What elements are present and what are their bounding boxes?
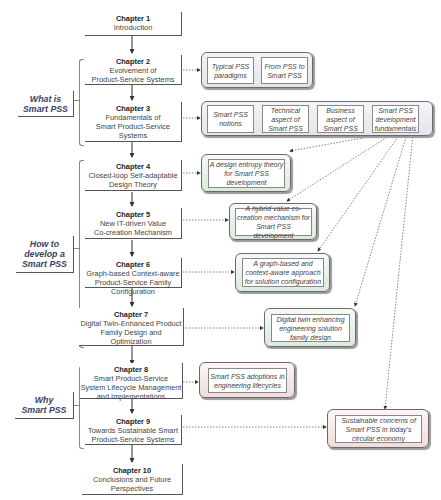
chapter-title: Digital Twin-Enhanced Product Family Des… [79, 319, 183, 346]
chapter-6-topic-group: A graph-based and context-aware approach… [235, 253, 330, 292]
topic-design-entropy-theory: A design entropy theory for Smart PSS de… [208, 159, 285, 188]
chapter-number: Chapter 5 [85, 210, 181, 219]
chapter-8: Chapter 8 Smart Product-Service System L… [80, 363, 183, 399]
chapter-9-topic-group: Sustainable concerns of Smart PSS in tod… [327, 409, 429, 448]
chapter-6: Chapter 6 Graph-based Context-aware Prod… [85, 258, 182, 288]
chapter-2: Chapter 2 Evolvement of Product-Service … [85, 55, 182, 85]
chapter-number: Chapter 3 [85, 104, 181, 113]
chapter-title: Evolvement of Product-Service Systems [85, 66, 181, 84]
topic-from-pss-to-smart-pss: From PSS to Smart PSS [261, 57, 308, 84]
chapter-7: Chapter 7 Digital Twin-Enhanced Product … [79, 308, 184, 346]
topic-typical-pss-paradigms: Typical PSS paradigms [207, 57, 254, 84]
topic-business-aspect: Business aspect of Smart PSS [317, 105, 364, 133]
chapter-3: Chapter 3 Fundamentals of Smart Product-… [85, 102, 182, 142]
chapter-title: Fundamentals of Smart Product-Service Sy… [85, 113, 181, 140]
chapter-number: Chapter 9 [85, 417, 181, 426]
chapter-number: Chapter 7 [79, 310, 183, 319]
chapter-7-topic-group: Digital twin enhancing engineering solut… [264, 308, 356, 347]
topic-development-fundamentals: Smart PSS development fundamentals [372, 105, 419, 133]
chapter-number: Chapter 2 [85, 57, 181, 66]
why-bracket-tick [74, 405, 80, 406]
chapter-4-topic-group: A design entropy theory for Smart PSS de… [201, 154, 291, 192]
section-how-to-develop: How to develop a Smart PSS [16, 236, 74, 273]
chapter-number: Chapter 6 [85, 260, 181, 269]
chapter-title: Introduction [85, 23, 181, 32]
chapter-5-topic-group: A hybrid value co- creation mechanism fo… [229, 203, 317, 240]
topic-smart-pss-notions: Smart PSS notions [207, 105, 254, 133]
chapter-title: Towards Sustainable Smart Product-Servic… [85, 426, 181, 444]
chapter-title: New IT-driven Value Co-creation Mechanis… [85, 219, 181, 237]
what-bracket-tick [74, 100, 80, 101]
what-bracket [79, 59, 84, 146]
chapter-4: Chapter 4 Closed-loop Self-adaptable Des… [85, 160, 182, 191]
topic-digital-twin-enhancing: Digital twin enhancing engineering solut… [271, 314, 350, 342]
chapter-number: Chapter 4 [85, 162, 181, 171]
topic-sustainable-concerns: Sustainable concerns of Smart PSS in tod… [335, 415, 422, 443]
chapter-title: Smart Product-Service System Lifecycle M… [80, 374, 182, 401]
chapter-8-topic-group: Smart PSS adoptions in engineering lifec… [199, 362, 295, 398]
topic-smart-pss-adoptions: Smart PSS adoptions in engineering lifec… [208, 368, 287, 393]
topic-technical-aspect: Technical aspect of Smart PSS [262, 105, 309, 133]
chapter-number: Chapter 1 [85, 14, 181, 23]
chapter-1: Chapter 1 Introduction [85, 12, 182, 36]
chapter-title: Graph-based Context-aware Product-Servic… [85, 269, 181, 296]
chapter-2-topics-group: Typical PSS paradigms From PSS to Smart … [201, 52, 313, 88]
how-bracket-tick [74, 248, 80, 249]
chapter-number: Chapter 10 [82, 466, 182, 475]
chapter-9: Chapter 9 Towards Sustainable Smart Prod… [85, 415, 182, 445]
chapter-title: Conclusions and Future Perspectives [82, 475, 182, 493]
topic-graph-based-approach: A graph-based and context-aware approach… [242, 258, 324, 287]
chapter-number: Chapter 8 [80, 365, 182, 374]
chapter-5: Chapter 5 New IT-driven Value Co-creatio… [85, 208, 182, 239]
chapter-title: Closed-loop Self-adaptable Design Theory [85, 171, 181, 189]
chapter-10: Chapter 10 Conclusions and Future Perspe… [82, 464, 183, 495]
topic-hybrid-value-cocreation: A hybrid value co- creation mechanism fo… [235, 208, 312, 236]
section-why-smart-pss: Why Smart PSS [15, 392, 74, 419]
section-what-is-smart-pss: What is Smart PSS [18, 91, 74, 117]
chapter-3-topics-group: Smart PSS notions Technical aspect of Sm… [201, 101, 433, 136]
